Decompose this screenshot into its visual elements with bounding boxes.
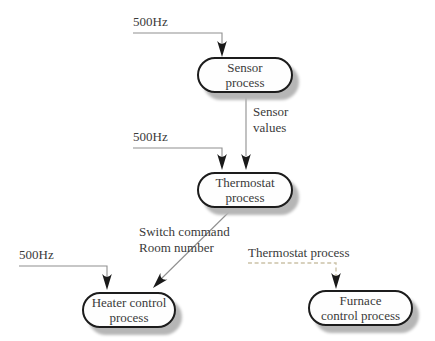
label-switch-command: Switch command Room number xyxy=(139,224,230,256)
arrowhead-sensor-to-thermostat-icon xyxy=(241,154,251,170)
node-sensor-label-line2: process xyxy=(226,75,265,90)
label-sensor-values: Sensor values xyxy=(253,104,288,136)
connector-thermostat-to-furnace-dashed xyxy=(248,263,336,277)
node-furnace-label-line1: Furnace xyxy=(340,293,382,308)
node-thermostat-label-line2: process xyxy=(226,190,265,205)
process-diagram: Sensor process Thermostat process Heater… xyxy=(0,0,435,341)
label-clock-rate-thermostat: 500Hz xyxy=(133,129,168,145)
label-switch-command-line1: Switch command xyxy=(139,224,230,240)
label-clock-rate-heater: 500Hz xyxy=(19,247,54,263)
label-sensor-values-line2: values xyxy=(253,120,288,136)
node-furnace-control-process: Furnace control process xyxy=(308,290,413,326)
node-heater-control-process: Heater control process xyxy=(82,292,176,328)
label-switch-command-line2: Room number xyxy=(139,240,230,256)
connector-clock-to-thermostat xyxy=(133,148,222,157)
label-clock-rate-sensor: 500Hz xyxy=(133,14,168,30)
node-thermostat-process: Thermostat process xyxy=(197,172,293,208)
node-sensor-process: Sensor process xyxy=(197,57,293,93)
node-heater-label-line2: process xyxy=(110,310,149,325)
connector-clock-to-heater xyxy=(19,266,107,277)
node-furnace-label-line2: control process xyxy=(321,308,400,323)
node-sensor-label-line1: Sensor xyxy=(227,60,262,75)
node-heater-label-line1: Heater control xyxy=(92,295,167,310)
label-sensor-values-line1: Sensor xyxy=(253,104,288,120)
connector-clock-to-sensor xyxy=(133,33,222,46)
node-thermostat-label-line1: Thermostat xyxy=(215,175,274,190)
label-thermostat-process-ref: Thermostat process xyxy=(248,245,349,261)
